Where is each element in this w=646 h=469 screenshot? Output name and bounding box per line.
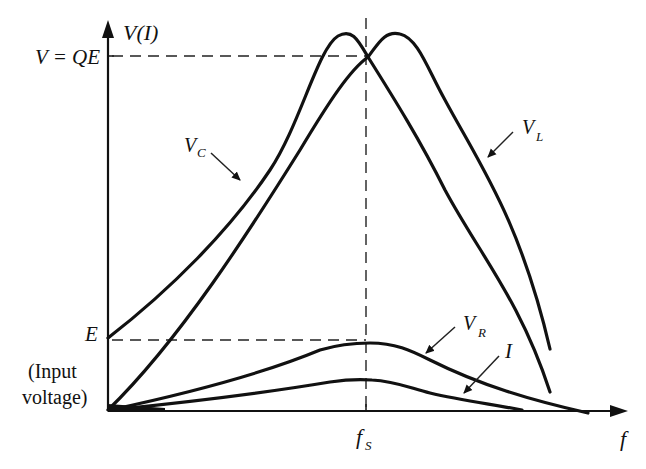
vr-pointer-arrow-icon <box>426 327 455 353</box>
i-label: I <box>504 339 513 363</box>
guide-lines <box>112 18 366 411</box>
vl-label-sub: L <box>535 129 543 144</box>
x-axis-label: f <box>620 426 629 451</box>
curves <box>108 33 588 413</box>
vr-label-main: V <box>463 312 478 334</box>
y-axis-label: V(I) <box>123 20 158 45</box>
fs-label-sub: S <box>365 438 372 453</box>
label-pointers <box>211 132 513 393</box>
vl-curve <box>108 33 550 410</box>
vc-label-sub: C <box>197 145 206 160</box>
y-axis-arrow-icon <box>102 20 114 38</box>
input-voltage-label-line1: (Input <box>28 360 77 383</box>
x-axis-arrow-icon <box>610 405 628 417</box>
vc-pointer-arrow-icon <box>211 153 240 180</box>
e-label: E <box>84 322 98 346</box>
qe-label: V = QE <box>35 45 100 69</box>
axes <box>102 20 628 417</box>
fs-label-main: f <box>356 424 365 449</box>
labels: V(I) V = QE E (Input voltage) V C V L V … <box>22 20 629 453</box>
vr-label-sub: R <box>477 325 486 340</box>
vl-pointer-arrow-icon <box>488 132 513 157</box>
input-voltage-label-line2: voltage) <box>22 386 88 409</box>
vl-label-main: V <box>522 116 537 138</box>
series-resonance-diagram: V(I) V = QE E (Input voltage) V C V L V … <box>0 0 646 469</box>
